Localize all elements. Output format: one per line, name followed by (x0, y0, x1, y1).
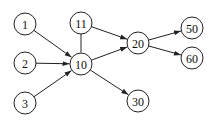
edge-1-to-10 (34, 30, 72, 57)
node-label: 10 (75, 58, 87, 72)
node-60: 60 (181, 47, 203, 69)
graph-diagram: 123111020506030 (0, 0, 220, 124)
node-50: 50 (181, 17, 203, 39)
node-label: 60 (186, 52, 198, 66)
edge-11-to-20 (91, 27, 127, 40)
node-30: 30 (127, 90, 149, 112)
node-label: 50 (186, 22, 198, 36)
node-1: 1 (14, 13, 36, 35)
node-20: 20 (127, 32, 149, 54)
node-label: 30 (132, 95, 144, 109)
node-10: 10 (70, 53, 92, 75)
node-3: 3 (14, 92, 36, 114)
node-label: 11 (75, 17, 87, 31)
node-label: 20 (132, 37, 144, 51)
node-2: 2 (14, 52, 36, 74)
edge-10-to-20 (91, 47, 127, 60)
node-label: 3 (22, 97, 28, 111)
edges-layer (34, 27, 181, 97)
node-11: 11 (70, 12, 92, 34)
edge-20-to-50 (149, 31, 181, 40)
edge-10-to-30 (90, 70, 128, 95)
edge-2-to-10 (36, 63, 70, 64)
node-label: 2 (22, 57, 28, 71)
edge-3-to-10 (34, 71, 72, 97)
node-label: 1 (22, 18, 28, 32)
edge-20-to-60 (149, 46, 181, 55)
